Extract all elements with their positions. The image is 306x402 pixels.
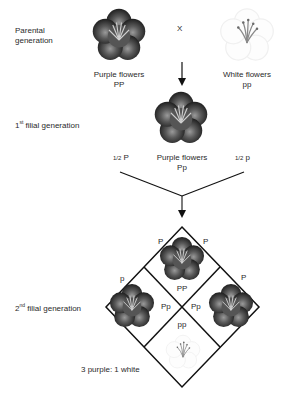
label-text: filial generation [23, 121, 79, 130]
phenotype-ratio: 3 purple: 1 white [81, 365, 140, 375]
genotype-label: PP [94, 80, 145, 90]
genotype-label: Pp [157, 163, 208, 173]
genotype-label: pp [223, 80, 271, 90]
label-text: filial generation [25, 304, 81, 313]
edge-label-left: p [120, 274, 124, 284]
phenotype-label: Purple flowers [157, 153, 208, 163]
cell-genotype-bottom: pp [178, 320, 187, 330]
fraction-label: 1/2 [235, 155, 243, 161]
label-line: Parental [15, 26, 53, 36]
gamete-right: 1/2 p [235, 153, 250, 163]
purple-flower-icon [110, 284, 154, 327]
allele-label: P [124, 153, 129, 162]
arrow-down-icon [178, 210, 186, 218]
cross-symbol: X [177, 24, 182, 34]
cell-genotype-left: Pp [161, 302, 171, 312]
parental-generation-label: Parental generation [15, 26, 53, 46]
label-line: generation [15, 36, 53, 46]
arrow-down-icon [178, 62, 186, 86]
purple-parent-caption: Purple flowers PP [94, 70, 145, 90]
cell-genotype-top: PP [177, 284, 188, 294]
purple-flower-icon [93, 9, 146, 60]
white-flower-icon [221, 9, 274, 60]
edge-label-top-right: P [203, 237, 208, 247]
edge-label-right: P [241, 273, 246, 283]
fraction-label: 1/2 [113, 155, 121, 161]
diagram-canvas [0, 0, 306, 402]
gamete-combination-lines [120, 172, 244, 212]
purple-flower-icon [209, 284, 253, 327]
f1-generation-label: 1st filial generation [15, 121, 79, 131]
allele-label: p [246, 153, 250, 162]
cell-genotype-right: Pp [191, 302, 201, 312]
f1-caption: Purple flowers Pp [157, 153, 208, 173]
f2-generation-label: 2nd filial generation [15, 304, 81, 314]
edge-label-top-left: P [158, 237, 163, 247]
phenotype-label: White flowers [223, 70, 271, 80]
white-flower-icon [166, 335, 200, 368]
phenotype-label: Purple flowers [94, 70, 145, 80]
purple-flower-icon [155, 92, 208, 143]
white-parent-caption: White flowers pp [223, 70, 271, 90]
gamete-left: 1/2 P [113, 153, 129, 163]
